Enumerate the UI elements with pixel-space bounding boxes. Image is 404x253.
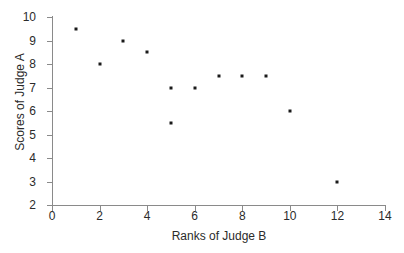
x-tick-label: 2	[88, 210, 112, 222]
x-tick-label: 6	[183, 210, 207, 222]
y-tick-label: 10	[14, 11, 36, 23]
data-point	[169, 86, 172, 89]
x-tick-label: 14	[373, 210, 397, 222]
y-tick-label: 3	[14, 176, 36, 188]
data-point	[265, 74, 268, 77]
data-point	[193, 86, 196, 89]
data-point	[336, 180, 339, 183]
data-point	[146, 51, 149, 54]
data-point	[74, 27, 77, 30]
x-tick-label: 10	[278, 210, 302, 222]
data-point	[169, 121, 172, 124]
data-point	[288, 110, 291, 113]
y-tick-label: 2	[14, 199, 36, 211]
x-tick-label: 0	[40, 210, 64, 222]
data-point	[217, 74, 220, 77]
x-tick-label: 12	[325, 210, 349, 222]
x-tick-label: 8	[230, 210, 254, 222]
plot-area	[52, 17, 385, 205]
data-point	[241, 74, 244, 77]
x-tick-label: 4	[135, 210, 159, 222]
y-axis-title: Scores of Judge A	[13, 37, 27, 167]
data-point	[122, 39, 125, 42]
x-axis-title: Ranks of Judge B	[52, 229, 386, 243]
scatter-plot-figure: 2345678910 02468101214 Scores of Judge A…	[0, 0, 404, 253]
data-point	[98, 63, 101, 66]
x-axis-line	[52, 205, 386, 206]
